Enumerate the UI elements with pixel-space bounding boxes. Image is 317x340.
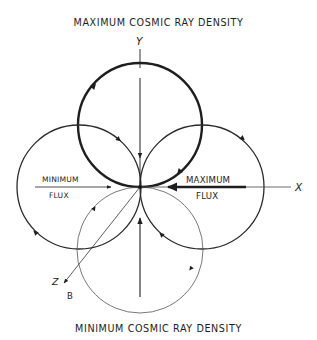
title-minimum-cosmic-ray-density: MINIMUM COSMIC RAY DENSITY (0, 324, 317, 334)
arrow-bottom-upper-left-icon (91, 205, 97, 211)
maximum-flux-label-line1: MAXIMUM (186, 176, 230, 185)
origin-point (138, 185, 142, 189)
arrow-bottom-lower-right-icon (187, 266, 193, 272)
title-maximum-cosmic-ray-density: MAXIMUM COSMIC RAY DENSITY (0, 18, 317, 28)
arrow-left-lower-icon (32, 229, 39, 236)
maximum-flux-label-line2: FLUX (196, 192, 218, 201)
z-axis-b-field-arrow (64, 187, 140, 283)
b-field-label: B (67, 292, 73, 301)
cosmic-ray-orbit-diagram: MAXIMUM COSMIC RAY DENSITY Y MINIMUM FLU… (0, 0, 317, 340)
z-axis-label: Z (52, 277, 59, 287)
diagram-canvas (0, 0, 317, 340)
minimum-flux-label-line2: FLUX (49, 192, 69, 200)
minimum-flux-label-line1: MINIMUM (42, 176, 79, 184)
x-axis-label: X (295, 182, 302, 193)
y-axis-label: Y (136, 36, 142, 47)
